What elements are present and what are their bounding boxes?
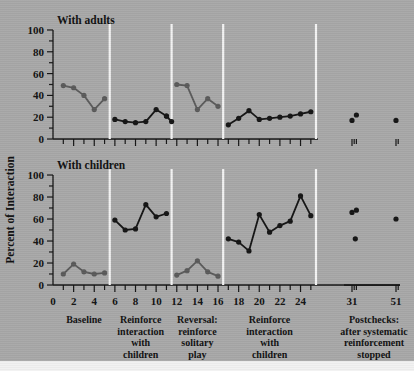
x-tick-label: 18 xyxy=(233,295,245,307)
data-point xyxy=(169,119,174,124)
phase-label: Reversal: xyxy=(177,314,218,325)
x-tick-label: 0 xyxy=(50,295,56,307)
x-tick-label: 16 xyxy=(213,295,225,307)
data-point xyxy=(257,212,262,217)
data-point xyxy=(298,193,303,198)
phase-label: with xyxy=(260,337,279,348)
data-point xyxy=(298,111,303,116)
data-point xyxy=(349,210,354,215)
phase-label: play xyxy=(188,349,206,360)
data-point xyxy=(112,218,117,223)
data-point xyxy=(92,107,97,112)
data-point xyxy=(267,116,272,121)
y-tick-label-with-adults: 0 xyxy=(39,133,45,145)
y-tick-label-with-adults: 40 xyxy=(33,89,45,101)
data-point xyxy=(81,269,86,274)
data-point xyxy=(353,236,358,241)
panel-title-with-children: With children xyxy=(57,159,126,171)
data-point xyxy=(226,236,231,241)
data-point xyxy=(71,85,76,90)
data-point xyxy=(143,202,148,207)
y-tick-label-with-adults: 60 xyxy=(33,68,45,80)
data-point xyxy=(393,216,398,221)
phase-label: stopped xyxy=(357,349,391,360)
data-point xyxy=(133,226,138,231)
data-point xyxy=(215,104,220,109)
figure-bottom-strip xyxy=(0,361,414,371)
data-point xyxy=(354,112,359,117)
phase-label: after systematic xyxy=(340,326,408,337)
data-point xyxy=(71,262,76,267)
phase-label: children xyxy=(252,349,288,360)
data-point xyxy=(133,120,138,125)
data-point xyxy=(174,273,179,278)
interaction-chart: Percent of InteractionWith adults0204060… xyxy=(0,0,414,371)
data-point xyxy=(102,270,107,275)
x-tick-label: 6 xyxy=(112,295,118,307)
data-point xyxy=(246,248,251,253)
data-point xyxy=(205,96,210,101)
data-point xyxy=(205,269,210,274)
data-point xyxy=(92,271,97,276)
x-tick-label: 12 xyxy=(171,295,183,307)
data-point xyxy=(61,83,66,88)
phase-label: reinforcement xyxy=(344,337,405,348)
data-point xyxy=(154,107,159,112)
data-point xyxy=(102,96,107,101)
x-tick-label: 14 xyxy=(192,295,204,307)
data-point xyxy=(236,240,241,245)
x-tick-label: 51 xyxy=(391,295,402,307)
x-tick-label: 24 xyxy=(295,295,307,307)
x-tick-label: 8 xyxy=(133,295,139,307)
data-point xyxy=(308,213,313,218)
data-point xyxy=(288,219,293,224)
data-point xyxy=(164,114,169,119)
y-tick-label-with-children: 0 xyxy=(39,279,45,291)
data-point xyxy=(354,208,359,213)
y-tick-label-with-adults: 80 xyxy=(33,46,45,58)
x-tick-label: 2 xyxy=(71,295,77,307)
y-axis-title: Percent of Interaction xyxy=(4,156,16,264)
data-point xyxy=(236,116,241,121)
phase-label: children xyxy=(123,349,159,360)
series-line xyxy=(115,205,167,230)
y-tick-label-with-children: 20 xyxy=(33,257,45,269)
y-tick-label-with-children: 80 xyxy=(33,191,45,203)
phase-label: Postchecks: xyxy=(349,314,399,325)
phase-label: Reinforce xyxy=(249,314,291,325)
data-point xyxy=(81,93,86,98)
panel-title-with-adults: With adults xyxy=(57,14,115,26)
data-point xyxy=(61,271,66,276)
data-point xyxy=(174,82,179,87)
x-tick-label: 20 xyxy=(254,295,266,307)
y-tick-label-with-children: 100 xyxy=(28,169,45,181)
data-point xyxy=(184,83,189,88)
y-tick-label-with-adults: 20 xyxy=(33,111,45,123)
phase-label: Reinforce xyxy=(120,314,162,325)
data-point xyxy=(393,118,398,123)
data-point xyxy=(184,268,189,273)
y-tick-label-with-children: 60 xyxy=(33,213,45,225)
data-point xyxy=(143,119,148,124)
data-point xyxy=(267,230,272,235)
phase-label: interaction xyxy=(246,326,293,337)
data-point xyxy=(257,117,262,122)
x-tick-label: 31 xyxy=(347,295,358,307)
phase-label: reinforce xyxy=(178,326,217,337)
data-point xyxy=(215,274,220,279)
data-point xyxy=(288,114,293,119)
phase-label: with xyxy=(131,337,150,348)
data-point xyxy=(195,258,200,263)
phase-label: interaction xyxy=(117,326,164,337)
series-line xyxy=(177,85,218,110)
x-tick-label: 10 xyxy=(151,295,163,307)
series-line xyxy=(115,110,167,123)
data-point xyxy=(246,108,251,113)
data-point xyxy=(277,223,282,228)
data-point xyxy=(349,118,354,123)
data-point xyxy=(226,122,231,127)
data-point xyxy=(123,119,128,124)
data-point xyxy=(195,107,200,112)
data-point xyxy=(164,211,169,216)
data-point xyxy=(277,115,282,120)
